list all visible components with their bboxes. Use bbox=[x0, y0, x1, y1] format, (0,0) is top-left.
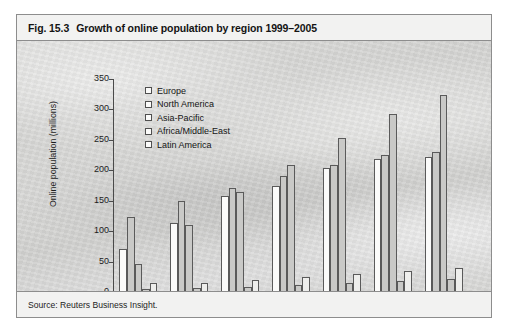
legend-label: Latin America bbox=[157, 140, 212, 150]
y-axis-tick-label-wrap: 200 bbox=[71, 170, 109, 171]
source-text: Source: Reuters Business Insight. bbox=[28, 300, 157, 310]
bar-chart-plot: Online population (millions) 05010015020… bbox=[17, 41, 491, 291]
bar-asia-pacific-1999 bbox=[135, 264, 143, 291]
figure-title: Growth of online population by region 19… bbox=[76, 22, 317, 34]
bar-asia-pacific-2004 bbox=[389, 114, 397, 291]
bar-asia-pacific-2005 bbox=[440, 95, 448, 291]
bar-europe-2005 bbox=[425, 157, 433, 291]
y-axis-tick bbox=[109, 231, 113, 232]
y-axis-tick-label: 350 bbox=[75, 74, 109, 83]
legend-label: North America bbox=[157, 99, 214, 109]
bar-africa-middle-east-2005 bbox=[447, 279, 455, 291]
legend-label: Europe bbox=[157, 86, 186, 96]
bar-africa-middle-east-2003 bbox=[346, 283, 354, 291]
y-axis-tick-label: 300 bbox=[75, 104, 109, 113]
y-axis-tick bbox=[109, 201, 113, 202]
legend-label: Asia-Pacific bbox=[157, 113, 204, 123]
bar-north-america-2001 bbox=[229, 188, 237, 291]
y-axis-tick-label: 100 bbox=[75, 226, 109, 235]
figure-caption-bar: Fig. 15.3 Growth of online population by… bbox=[17, 15, 491, 41]
bar-asia-pacific-2000 bbox=[185, 225, 193, 291]
y-axis-tick-label: 150 bbox=[75, 196, 109, 205]
bar-latin-america-1999 bbox=[150, 283, 158, 291]
y-axis-tick-label: 200 bbox=[75, 165, 109, 174]
bar-latin-america-2000 bbox=[201, 283, 209, 291]
bar-europe-2002 bbox=[272, 186, 280, 292]
legend-item: Latin America bbox=[145, 139, 230, 150]
y-axis-title: Online population (millions) bbox=[48, 74, 58, 234]
bar-europe-2000 bbox=[170, 223, 178, 291]
bar-europe-2003 bbox=[323, 168, 331, 291]
y-axis-line bbox=[113, 79, 114, 291]
bar-north-america-2000 bbox=[178, 201, 186, 291]
bar-latin-america-2005 bbox=[455, 268, 463, 291]
legend-label: Africa/Middle-East bbox=[157, 126, 230, 136]
bar-north-america-2005 bbox=[432, 152, 440, 291]
bar-asia-pacific-2001 bbox=[236, 192, 244, 291]
bar-europe-1999 bbox=[119, 249, 127, 291]
y-axis-tick-label-wrap: 150 bbox=[71, 201, 109, 202]
chart-area: Online population (millions) 05010015020… bbox=[17, 41, 491, 291]
y-axis-tick-label: 50 bbox=[75, 257, 109, 266]
bar-north-america-2004 bbox=[381, 155, 389, 291]
chart-legend: EuropeNorth AmericaAsia-PacificAfrica/Mi… bbox=[145, 85, 230, 150]
legend-swatch-icon bbox=[145, 128, 152, 135]
figure-number: Fig. 15.3 bbox=[28, 22, 69, 34]
y-axis-tick bbox=[109, 79, 113, 80]
legend-item: Asia-Pacific bbox=[145, 112, 230, 123]
bar-asia-pacific-2002 bbox=[287, 165, 295, 291]
y-axis-tick bbox=[109, 109, 113, 110]
y-axis-tick bbox=[109, 170, 113, 171]
legend-item: Europe bbox=[145, 85, 230, 96]
bar-north-america-1999 bbox=[127, 217, 135, 291]
bar-europe-2004 bbox=[374, 159, 382, 291]
y-axis-tick bbox=[109, 262, 113, 263]
legend-swatch-icon bbox=[145, 114, 152, 121]
legend-swatch-icon bbox=[145, 101, 152, 108]
legend-swatch-icon bbox=[145, 141, 152, 148]
legend-item: Africa/Middle-East bbox=[145, 126, 230, 137]
y-axis-tick bbox=[109, 140, 113, 141]
bar-latin-america-2004 bbox=[404, 271, 412, 291]
y-axis-tick-label-wrap: 350 bbox=[71, 79, 109, 80]
bar-north-america-2002 bbox=[280, 176, 288, 291]
bar-latin-america-2002 bbox=[302, 277, 310, 291]
y-axis-tick-label-wrap: 250 bbox=[71, 140, 109, 141]
legend-item: North America bbox=[145, 99, 230, 110]
bar-latin-america-2001 bbox=[252, 280, 260, 291]
figure-box: Fig. 15.3 Growth of online population by… bbox=[16, 14, 492, 318]
bar-latin-america-2003 bbox=[353, 274, 361, 291]
y-axis-tick-label: 250 bbox=[75, 135, 109, 144]
bar-europe-2001 bbox=[221, 196, 229, 291]
bar-africa-middle-east-2004 bbox=[397, 281, 405, 291]
bar-north-america-2003 bbox=[330, 165, 338, 291]
y-axis-tick-label-wrap: 300 bbox=[71, 109, 109, 110]
legend-swatch-icon bbox=[145, 87, 152, 94]
bar-asia-pacific-2003 bbox=[338, 138, 346, 291]
y-axis-tick-label-wrap: 100 bbox=[71, 231, 109, 232]
figure-source-bar: Source: Reuters Business Insight. bbox=[17, 291, 491, 317]
y-axis-tick-label-wrap: 50 bbox=[71, 262, 109, 263]
